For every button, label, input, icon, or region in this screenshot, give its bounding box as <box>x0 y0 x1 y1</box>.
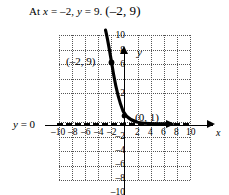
data-point-intercept <box>122 114 127 119</box>
graph-figure: y x –10 –8 –6 –4 –2 2 4 6 8 10 10 8 6 2 … <box>0 22 229 195</box>
asymptote-label: y = 0 <box>13 118 35 130</box>
caption-x-eq: = –2, <box>48 5 77 17</box>
exponential-curve <box>0 22 229 195</box>
point-label-high: (–2, 9) <box>66 55 95 67</box>
data-point-high <box>109 60 115 66</box>
caption-prefix: At <box>29 5 43 17</box>
asymptote-label-eq: = 0 <box>18 118 35 130</box>
caption-point: (–2, 9) <box>105 3 140 18</box>
figure-caption: At x = –2, y = 9. (–2, 9) <box>29 3 141 19</box>
point-label-intercept: (0, 1) <box>135 111 159 123</box>
caption-y-eq: = 9. <box>82 5 105 17</box>
